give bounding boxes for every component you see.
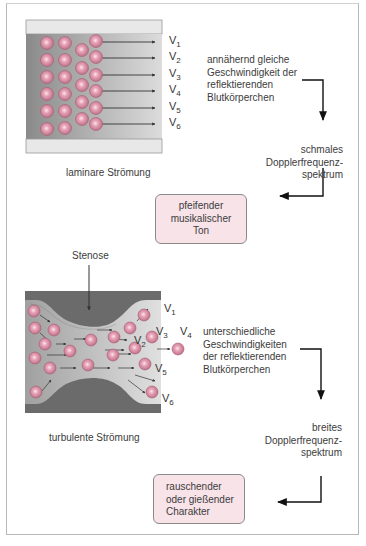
blood-cell: [76, 44, 89, 57]
velocity-label: V6: [162, 392, 174, 407]
blood-cell: [59, 88, 72, 101]
laminar-velocity-labels: V1V2V3V4V5V6: [169, 34, 181, 131]
blood-cell: [146, 386, 158, 398]
blood-cell: [82, 359, 94, 371]
stenosis-vessel: [25, 291, 161, 413]
velocity-label: V1: [164, 302, 176, 317]
blood-cell: [64, 345, 76, 357]
noise-character-text: rauschender oder gießender Charakter: [166, 481, 244, 519]
velocity-label: V2: [169, 50, 181, 65]
blood-cell: [139, 358, 151, 370]
blood-cell: [59, 105, 72, 118]
blood-cell: [107, 349, 119, 361]
blood-cell: [41, 54, 54, 67]
narrow-spectrum-label: schmales Dopplerfrequenz- spektrum: [266, 144, 343, 182]
blood-cell: [29, 322, 41, 334]
blood-cell: [90, 118, 103, 131]
blood-cell: [90, 102, 103, 115]
blood-cell: [108, 331, 120, 343]
arrow-to-narrow-spectrum: [302, 80, 323, 120]
blood-cell: [76, 113, 89, 126]
blood-cell: [41, 123, 54, 136]
diagram-graphics: V1V2V3V4V5V6 V1V2V3V4V5V6: [0, 0, 366, 546]
blood-cell: [48, 324, 60, 336]
blood-cell: [30, 386, 42, 398]
laminar-caption: laminare Strömung: [66, 167, 150, 180]
blood-cell: [59, 37, 72, 50]
blood-cell: [41, 37, 54, 50]
arrow-to-broad-spectrum: [300, 349, 321, 399]
blood-cell: [59, 54, 72, 67]
turbulent-caption: turbulente Strömung: [49, 432, 140, 445]
blood-cell: [29, 352, 41, 364]
stenosis-label: Stenose: [72, 250, 109, 263]
turbulent-description: unterschiedliche Geschwindigkeiten der r…: [203, 326, 287, 376]
arrow-to-noise-box: [278, 476, 321, 502]
velocity-label: V1: [169, 34, 181, 49]
blood-cell: [59, 122, 72, 135]
broad-spectrum-label: breites Dopplerfrequenz- spektrum: [265, 422, 342, 460]
velocity-label: V4: [180, 325, 192, 340]
blood-cell: [76, 62, 89, 75]
blood-cell: [44, 362, 56, 374]
blood-cell: [90, 69, 103, 82]
blood-cell: [90, 51, 103, 64]
blood-cell: [28, 305, 40, 317]
blood-cell: [90, 35, 103, 48]
blood-cell: [41, 88, 54, 101]
velocity-label: V3: [169, 67, 181, 82]
blood-cell: [41, 71, 54, 84]
blood-cell: [138, 309, 150, 321]
blood-cell: [124, 322, 136, 334]
noise-character-box: rauschender oder gießender Charakter: [153, 474, 245, 524]
blood-cell: [76, 96, 89, 109]
velocity-label: V4: [169, 83, 181, 98]
velocity-label: V5: [169, 100, 181, 115]
blood-cell: [39, 338, 51, 350]
whistle-tone-text: pfeifender musikalischer Ton: [156, 200, 246, 238]
velocity-label: V6: [169, 116, 181, 131]
blood-cell: [76, 79, 89, 92]
blood-cell: [41, 105, 54, 118]
laminar-description: annähernd gleiche Geschwindigkeit der re…: [207, 54, 297, 104]
blood-cell: [85, 334, 97, 346]
whistle-tone-box: pfeifender musikalischer Ton: [155, 194, 247, 244]
blood-cell: [172, 343, 184, 355]
blood-cell: [90, 85, 103, 98]
blood-cell: [59, 71, 72, 84]
